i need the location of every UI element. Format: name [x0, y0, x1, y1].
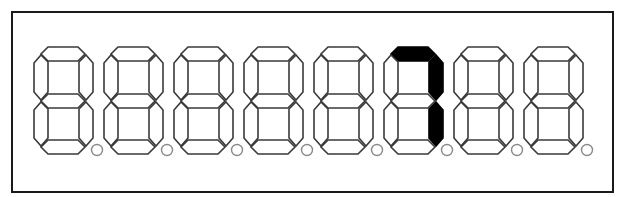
- segment-f: [314, 55, 328, 100]
- segment-g: [41, 94, 85, 108]
- segment-a: [251, 47, 295, 61]
- segment-b: [79, 55, 93, 100]
- segment-d: [531, 140, 575, 154]
- segment-a: [181, 47, 225, 61]
- segment-g: [391, 94, 435, 108]
- segment-f: [34, 55, 48, 100]
- seven-segment-display: [0, 0, 620, 197]
- digit-2: [103, 46, 175, 158]
- segment-c: [429, 102, 443, 146]
- segment-d: [391, 140, 435, 154]
- segment-d: [41, 140, 85, 154]
- digit-3: [173, 46, 245, 158]
- segment-f: [104, 55, 118, 100]
- segment-c: [289, 102, 303, 146]
- segment-g: [461, 94, 505, 108]
- segment-f: [384, 55, 398, 100]
- segment-g: [321, 94, 365, 108]
- segment-c: [149, 102, 163, 146]
- segment-b: [499, 55, 513, 100]
- segment-e: [524, 102, 538, 146]
- segment-b: [359, 55, 373, 100]
- segment-c: [219, 102, 233, 146]
- segment-b: [289, 55, 303, 100]
- segment-d: [251, 140, 295, 154]
- segment-e: [104, 102, 118, 146]
- digit-4: [243, 46, 315, 158]
- segment-a: [391, 47, 435, 61]
- segment-e: [174, 102, 188, 146]
- segment-b: [429, 55, 443, 100]
- segment-a: [111, 47, 155, 61]
- segment-d: [111, 140, 155, 154]
- segment-a: [461, 47, 505, 61]
- segment-c: [499, 102, 513, 146]
- segment-g: [531, 94, 575, 108]
- segment-a: [321, 47, 365, 61]
- segment-c: [359, 102, 373, 146]
- digit-7: [453, 46, 525, 158]
- segment-f: [174, 55, 188, 100]
- segment-a: [531, 47, 575, 61]
- segment-e: [454, 102, 468, 146]
- segment-b: [569, 55, 583, 100]
- decimal-point: [442, 145, 453, 156]
- decimal-point: [302, 145, 313, 156]
- segment-e: [384, 102, 398, 146]
- segment-c: [79, 102, 93, 146]
- decimal-point: [582, 145, 593, 156]
- segment-b: [219, 55, 233, 100]
- decimal-point: [232, 145, 243, 156]
- decimal-point: [372, 145, 383, 156]
- segment-e: [34, 102, 48, 146]
- segment-g: [251, 94, 295, 108]
- segment-g: [181, 94, 225, 108]
- segment-a: [41, 47, 85, 61]
- segment-e: [314, 102, 328, 146]
- segment-e: [244, 102, 258, 146]
- segment-b: [149, 55, 163, 100]
- decimal-point: [162, 145, 173, 156]
- decimal-point: [92, 145, 103, 156]
- segment-f: [244, 55, 258, 100]
- digit-6: [383, 46, 455, 158]
- digit-5: [313, 46, 385, 158]
- digit-8: [523, 46, 595, 158]
- segment-d: [181, 140, 225, 154]
- segment-d: [321, 140, 365, 154]
- decimal-point: [512, 145, 523, 156]
- segment-d: [461, 140, 505, 154]
- segment-f: [454, 55, 468, 100]
- segment-f: [524, 55, 538, 100]
- segment-g: [111, 94, 155, 108]
- segment-c: [569, 102, 583, 146]
- digit-1: [33, 46, 105, 158]
